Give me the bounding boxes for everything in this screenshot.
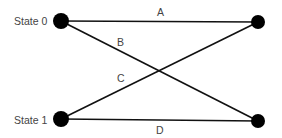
edge-b-label: B bbox=[117, 36, 124, 48]
edge-d bbox=[61, 119, 258, 121]
edge-a bbox=[61, 21, 258, 22]
state-1-label: State 1 bbox=[14, 114, 47, 126]
edge-c-label: C bbox=[117, 72, 125, 84]
node-state0-left bbox=[53, 13, 69, 29]
state-0-label: State 0 bbox=[14, 15, 47, 27]
state-transition-diagram: State 0 State 1 A B C D bbox=[0, 0, 282, 138]
edge-a-label: A bbox=[157, 6, 164, 18]
node-state1-left bbox=[53, 111, 69, 127]
edge-d-label: D bbox=[156, 124, 164, 136]
node-state0-right bbox=[251, 15, 265, 29]
node-state1-right bbox=[251, 114, 265, 128]
